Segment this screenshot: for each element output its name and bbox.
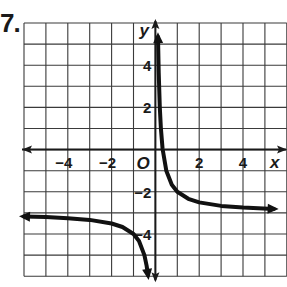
y-tick-label: −2 xyxy=(134,184,151,201)
curve-right-branch xyxy=(158,37,274,209)
y-tick-label: 4 xyxy=(143,57,152,74)
x-tick-label: −2 xyxy=(99,154,116,171)
axes xyxy=(22,19,287,282)
origin-label: O xyxy=(136,154,149,173)
curve-arrowhead-icon xyxy=(142,268,152,280)
x-tick-label: 2 xyxy=(195,154,203,171)
x-axis-label: x xyxy=(269,153,281,172)
x-tick-label: −4 xyxy=(55,154,73,171)
curve-arrowhead-icon xyxy=(267,204,278,214)
curve-left-branch xyxy=(24,217,148,275)
function-graph: −4−22442−2−4 x y O xyxy=(0,0,287,287)
y-axis-label: y xyxy=(138,21,150,40)
y-tick-label: 2 xyxy=(143,99,151,116)
x-tick-label: 4 xyxy=(239,154,248,171)
